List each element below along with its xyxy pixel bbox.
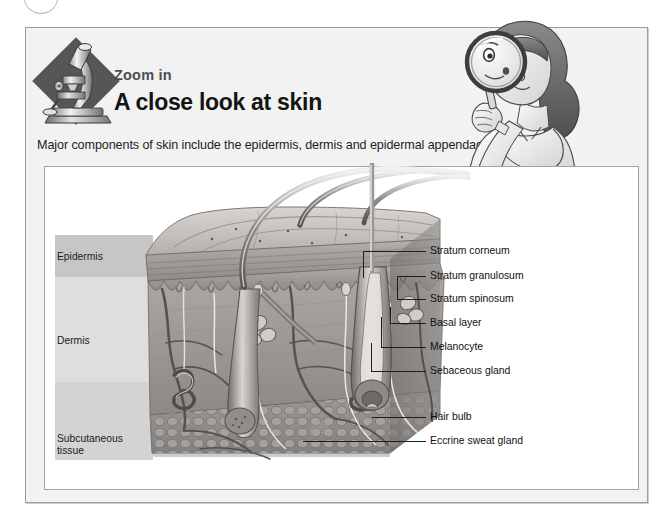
callout-hair-bulb: Hair bulb <box>430 411 472 422</box>
layer-label-epidermis: Epidermis <box>57 251 103 263</box>
callout-stratum-spinosum: Stratum spinosum <box>430 293 514 304</box>
leader-basal-layer-v <box>390 307 391 323</box>
layer-label-subcutaneous: Subcutaneous tissue <box>57 433 123 457</box>
leader-stratum-corneum <box>363 251 426 252</box>
leader-hair-bulb <box>372 417 426 418</box>
leader-stratum-corneum-v <box>363 251 364 278</box>
leader-eccrine-sweat-gland <box>303 441 426 442</box>
skin-cross-section-illustration <box>140 163 470 481</box>
leader-stratum-spinosum <box>397 299 426 300</box>
leader-sebaceous-gland-v <box>371 343 372 371</box>
figure-panel: Epidermis Dermis Subcutaneous tissue <box>44 166 639 490</box>
layer-label-dermis: Dermis <box>57 335 90 347</box>
eyebrow-label: Zoom in <box>114 67 172 83</box>
layer-band-dermis <box>55 277 153 382</box>
page-title: A close look at skin <box>114 89 322 116</box>
leader-melanocyte <box>381 347 426 348</box>
page-subtitle: Major components of skin include the epi… <box>37 138 597 152</box>
leader-melanocyte-v <box>381 317 382 347</box>
callout-melanocyte: Melanocyte <box>430 341 483 352</box>
leader-stratum-granulosum <box>397 276 426 277</box>
callout-basal-layer: Basal layer <box>430 317 481 328</box>
leader-basal-layer <box>390 323 426 324</box>
card-header: Zoom in A close look at skin Major compo… <box>26 28 647 166</box>
leader-sebaceous-gland <box>371 371 426 372</box>
top-circle-ornament <box>24 0 58 14</box>
callout-stratum-granulosum: Stratum granulosum <box>430 270 524 281</box>
callout-sebaceous-gland: Sebaceous gland <box>430 365 510 376</box>
leader-stratum-granulosum-v <box>397 276 398 299</box>
microscope-badge <box>31 36 127 132</box>
callout-stratum-corneum: Stratum corneum <box>430 245 510 256</box>
zoom-in-card: Zoom in A close look at skin Major compo… <box>25 27 648 503</box>
callout-eccrine-sweat-gland: Eccrine sweat gland <box>430 435 523 446</box>
layer-label-subcutaneous-line1: Subcutaneous <box>57 433 123 445</box>
microscope-icon <box>37 36 121 128</box>
layer-label-subcutaneous-line2: tissue <box>57 445 123 457</box>
